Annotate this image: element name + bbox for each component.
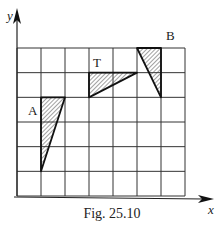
y-axis-label: y [5,8,13,23]
triangle-a [41,97,65,171]
figure-canvas: y x ATB [0,0,224,232]
x-axis [14,197,204,199]
triangle-label-b: B [166,28,175,43]
triangle-label-a: A [28,103,38,118]
triangle-label-t: T [93,55,101,70]
shapes: ATB [28,28,175,171]
figure-caption: Fig. 25.10 [0,206,224,222]
